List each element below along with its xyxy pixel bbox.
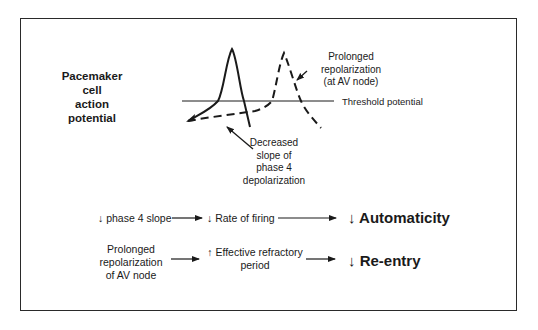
label-line: ↑ Effective refractory	[205, 246, 305, 259]
label-line: of AV node	[94, 269, 168, 282]
altered-action-potential-curve	[188, 53, 321, 128]
prolonged-repolarization-pointer	[297, 71, 307, 80]
decreased-slope-label: Decreased slope of phase 4 depolarizatio…	[236, 137, 312, 187]
flow-automaticity: ↓ Automaticity	[348, 209, 450, 226]
label-line: phase 4	[236, 162, 312, 175]
label-line: slope of	[236, 150, 312, 163]
flow-prolonged-repolarization: Prolonged repolarization of AV node	[94, 243, 168, 282]
prolonged-repolarization-label: Prolonged repolarization (at AV node)	[310, 51, 392, 89]
label-line: period	[205, 259, 305, 272]
label-line: (at AV node)	[310, 76, 392, 89]
flow-rate-of-firing: ↓ Rate of firing	[207, 212, 275, 225]
threshold-potential-label: Threshold potential	[342, 96, 423, 107]
label-line: repolarization	[94, 256, 168, 269]
label-line: depolarization	[236, 175, 312, 188]
flow-phase4-slope: ↓ phase 4 slope	[98, 212, 172, 225]
label-line: repolarization	[310, 64, 392, 77]
label-line: Decreased	[236, 137, 312, 150]
flow-effective-refractory-period: ↑ Effective refractory period	[205, 246, 305, 272]
label-line: Prolonged	[310, 51, 392, 64]
flow-re-entry: ↓ Re-entry	[348, 252, 421, 269]
label-line: Prolonged	[94, 243, 168, 256]
